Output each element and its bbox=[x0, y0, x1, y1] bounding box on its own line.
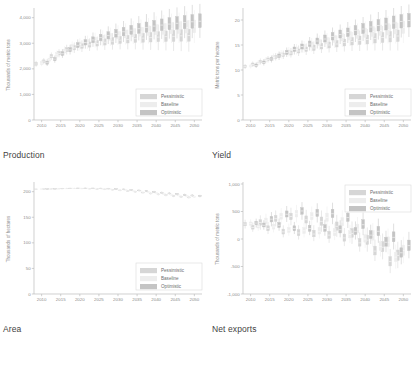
box-body bbox=[354, 227, 357, 234]
legend-label: Pessimistic bbox=[370, 190, 394, 195]
box-body bbox=[346, 213, 349, 221]
legend-swatch bbox=[140, 94, 157, 99]
x-tick-label: 2025 bbox=[94, 123, 104, 128]
legend: PessimisticBaselineOptimistic bbox=[345, 185, 411, 212]
box-body bbox=[308, 225, 311, 231]
x-tick-label: 2050 bbox=[398, 123, 408, 128]
y-tick-label: 4,000 bbox=[20, 15, 32, 20]
y-tick-label: 3,000 bbox=[20, 41, 32, 46]
legend-label: Optimistic bbox=[370, 206, 391, 211]
x-tick-label: 2020 bbox=[75, 123, 85, 128]
box-body bbox=[318, 227, 321, 234]
chart-net-exports: -1,000-50005001,000Thousands of metric t… bbox=[209, 174, 417, 324]
y-tick-label: 20 bbox=[235, 18, 240, 23]
series-optimistic bbox=[255, 5, 410, 69]
box-body bbox=[374, 246, 377, 255]
series-pessimistic bbox=[35, 188, 190, 199]
x-tick-label: 2020 bbox=[75, 297, 85, 302]
x-tick-label: 2030 bbox=[113, 297, 123, 302]
x-tick-label: 2015 bbox=[56, 123, 66, 128]
x-tick-label: 2040 bbox=[360, 123, 370, 128]
y-axis-title: Metric tons per hectare bbox=[215, 41, 220, 88]
box-body bbox=[297, 230, 300, 236]
box-body bbox=[199, 14, 202, 28]
box-body bbox=[377, 226, 380, 235]
box-body bbox=[369, 231, 372, 239]
x-tick-label: 2020 bbox=[284, 123, 294, 128]
legend-label: Baseline bbox=[370, 198, 388, 203]
box-body bbox=[362, 24, 365, 34]
x-tick-label: 2010 bbox=[37, 297, 47, 302]
x-tick-label: 2045 bbox=[170, 297, 180, 302]
y-axis-title: Thousands of hectares bbox=[6, 215, 11, 262]
legend-swatch bbox=[349, 94, 366, 99]
box-body bbox=[176, 17, 179, 30]
legend-label: Baseline bbox=[370, 102, 388, 107]
x-tick-label: 2010 bbox=[37, 123, 47, 128]
legend-swatch bbox=[140, 276, 157, 281]
y-axis-title: Thousands of metric tons bbox=[6, 39, 11, 91]
box-body bbox=[392, 16, 395, 29]
series-baseline bbox=[249, 205, 404, 269]
box-body bbox=[364, 235, 367, 243]
panel-area: 050100150200Thousands of hectares2010201… bbox=[0, 174, 208, 346]
y-tick-label: 10 bbox=[235, 68, 240, 73]
y-tick-label: -500 bbox=[231, 264, 240, 269]
legend-label: Pessimistic bbox=[161, 94, 185, 99]
x-tick-label: 2035 bbox=[341, 123, 351, 128]
x-tick-label: 2045 bbox=[170, 123, 180, 128]
legend-label: Optimistic bbox=[161, 284, 182, 289]
x-tick-label: 2030 bbox=[113, 123, 123, 128]
panel-yield: 05101520Metric tons per hectare201020152… bbox=[209, 0, 417, 172]
legend-swatch bbox=[349, 102, 366, 107]
legend: PessimisticBaselineOptimistic bbox=[136, 263, 202, 290]
x-tick-label: 2035 bbox=[341, 297, 351, 302]
series-pessimistic bbox=[244, 23, 399, 69]
chart-yield: 05101520Metric tons per hectare201020152… bbox=[209, 0, 417, 150]
box-body bbox=[326, 213, 329, 221]
series-pessimistic bbox=[244, 208, 399, 273]
box-body bbox=[293, 226, 296, 231]
legend-swatch bbox=[349, 110, 366, 115]
legend-swatch bbox=[349, 206, 366, 211]
legend-swatch bbox=[349, 190, 366, 195]
x-tick-label: 2035 bbox=[132, 297, 142, 302]
x-tick-label: 2010 bbox=[246, 297, 256, 302]
x-tick-label: 2015 bbox=[265, 297, 275, 302]
legend-swatch bbox=[140, 268, 157, 273]
box-body bbox=[358, 238, 361, 246]
box-body bbox=[324, 225, 327, 232]
y-tick-label: 0 bbox=[28, 292, 31, 297]
x-tick-label: 2015 bbox=[56, 297, 66, 302]
box-body bbox=[160, 19, 163, 31]
y-tick-label: 0 bbox=[237, 237, 240, 242]
legend-label: Pessimistic bbox=[370, 94, 394, 99]
x-tick-label: 2025 bbox=[303, 123, 313, 128]
y-tick-label: 1,000 bbox=[20, 92, 32, 97]
caption-yield: Yield bbox=[212, 150, 231, 160]
y-tick-label: 0 bbox=[237, 118, 240, 123]
box-body bbox=[339, 30, 342, 38]
box-body bbox=[379, 242, 382, 251]
x-tick-label: 2045 bbox=[379, 123, 389, 128]
box-body bbox=[191, 15, 194, 29]
y-tick-label: 1,000 bbox=[229, 182, 241, 187]
x-tick-label: 2035 bbox=[132, 123, 142, 128]
x-tick-label: 2015 bbox=[265, 123, 275, 128]
chart-area: 050100150200Thousands of hectares2010201… bbox=[0, 174, 208, 324]
y-tick-label: 15 bbox=[235, 43, 240, 48]
x-tick-label: 2040 bbox=[360, 297, 370, 302]
series-pessimistic bbox=[35, 20, 190, 67]
legend-swatch bbox=[140, 110, 157, 115]
box-body bbox=[324, 35, 327, 42]
box-body bbox=[280, 213, 283, 219]
x-tick-label: 2030 bbox=[322, 123, 332, 128]
y-tick-label: 5 bbox=[237, 93, 240, 98]
legend: PessimisticBaselineOptimistic bbox=[136, 89, 202, 116]
y-tick-label: 2,000 bbox=[20, 66, 32, 71]
y-tick-label: 0 bbox=[28, 118, 31, 123]
legend-swatch bbox=[140, 284, 157, 289]
legend-label: Optimistic bbox=[370, 110, 391, 115]
x-tick-label: 2025 bbox=[303, 297, 313, 302]
x-tick-label: 2050 bbox=[398, 297, 408, 302]
